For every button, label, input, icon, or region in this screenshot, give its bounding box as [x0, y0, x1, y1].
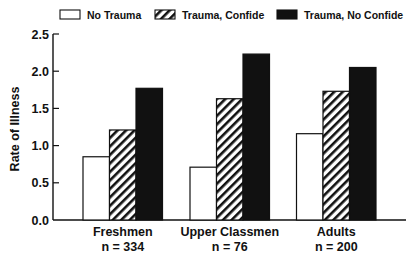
- legend-item: No Trauma: [60, 9, 141, 21]
- bar-group: [297, 67, 377, 220]
- bars: [83, 54, 376, 220]
- category-label: Freshmen: [93, 225, 153, 239]
- bar: [190, 167, 217, 220]
- category-label: Adults: [317, 225, 356, 239]
- legend-item: Trauma, No Confide: [277, 9, 403, 21]
- bar: [243, 54, 270, 220]
- category-sublabel: n = 200: [315, 240, 358, 254]
- legend-item: Trauma, Confide: [155, 9, 264, 21]
- bar: [83, 157, 110, 220]
- y-tick-label: 1.5: [32, 102, 49, 116]
- y-tick-label: 1.0: [32, 139, 49, 153]
- category-sublabel: n = 76: [212, 240, 248, 254]
- y-axis-label: Rate of Illness: [8, 87, 22, 172]
- y-tick-label: 2.5: [32, 28, 49, 42]
- y-tick-label: 0.5: [32, 176, 49, 190]
- category-label: Upper Classmen: [180, 225, 279, 239]
- category-sublabel: n = 334: [101, 240, 144, 254]
- x-axis-labels: Freshmenn = 334Upper Classmenn = 76Adult…: [93, 225, 358, 254]
- y-tick-label: 2.0: [32, 65, 49, 79]
- bar: [217, 99, 244, 220]
- legend-swatch: [60, 10, 80, 19]
- legend-swatch: [155, 10, 175, 19]
- bar: [110, 130, 137, 220]
- legend-label: Trauma, No Confide: [304, 9, 403, 21]
- legend-label: Trauma, Confide: [182, 9, 264, 21]
- bar: [136, 88, 163, 220]
- bar-group: [190, 54, 270, 220]
- legend-label: No Trauma: [87, 9, 141, 21]
- bar: [350, 67, 377, 220]
- legend: No TraumaTrauma, ConfideTrauma, No Confi…: [60, 9, 403, 21]
- bar-group: [83, 88, 163, 220]
- bar: [297, 134, 324, 220]
- bar-chart: No TraumaTrauma, ConfideTrauma, No Confi…: [0, 0, 412, 256]
- bar: [323, 91, 350, 220]
- legend-swatch: [277, 10, 297, 19]
- y-tick-label: 0.0: [32, 214, 49, 228]
